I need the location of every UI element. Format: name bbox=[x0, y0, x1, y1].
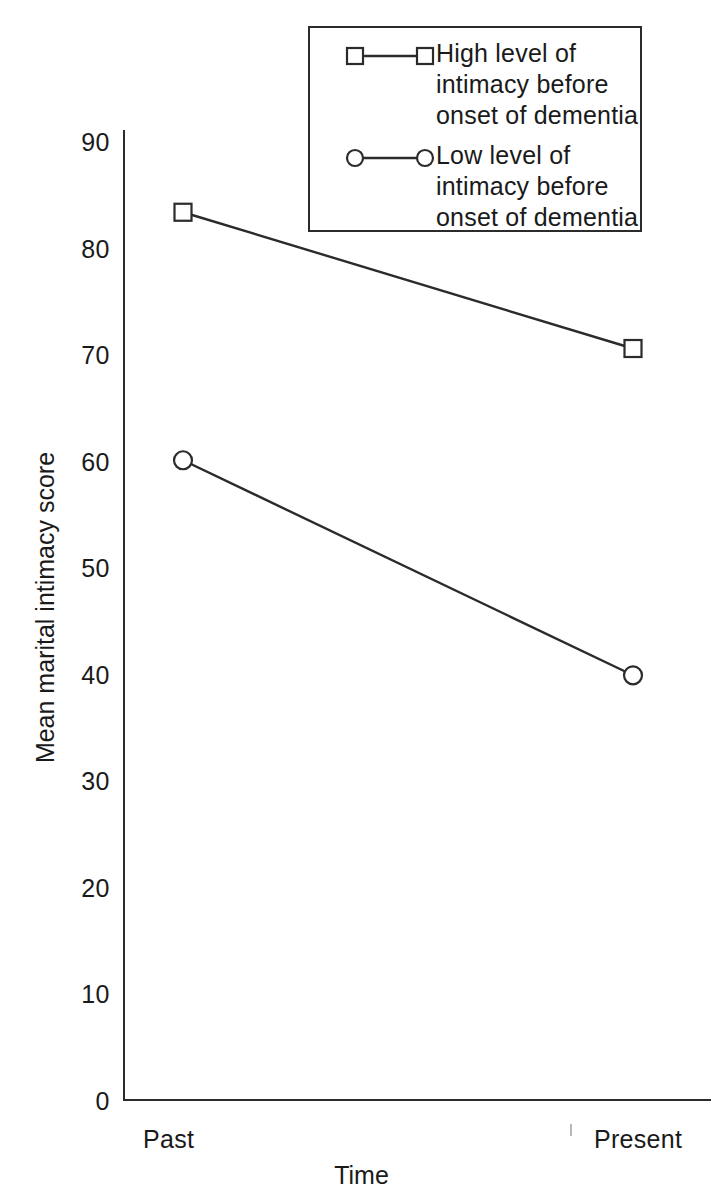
legend-label-low: Low level of intimacy before onset of de… bbox=[436, 140, 638, 233]
circle-marker-icon bbox=[344, 144, 436, 172]
legend-sample-high bbox=[344, 42, 436, 70]
series-low-intimacy bbox=[174, 451, 642, 684]
legend-entry-high: High level of intimacy before onset of d… bbox=[310, 38, 640, 131]
legend-entry-low: Low level of intimacy before onset of de… bbox=[310, 140, 640, 233]
series-low-line bbox=[183, 460, 633, 675]
legend-sample-low bbox=[344, 144, 436, 172]
circle-marker bbox=[174, 451, 192, 469]
square-marker-icon bbox=[344, 42, 436, 70]
circle-marker bbox=[624, 666, 642, 684]
legend-box: High level of intimacy before onset of d… bbox=[308, 26, 642, 232]
square-marker bbox=[625, 340, 642, 357]
square-marker bbox=[175, 204, 192, 221]
legend-label-high: High level of intimacy before onset of d… bbox=[436, 38, 638, 131]
line-chart-figure: 90 80 70 60 50 40 30 20 10 0 Past Presen… bbox=[0, 0, 723, 1201]
